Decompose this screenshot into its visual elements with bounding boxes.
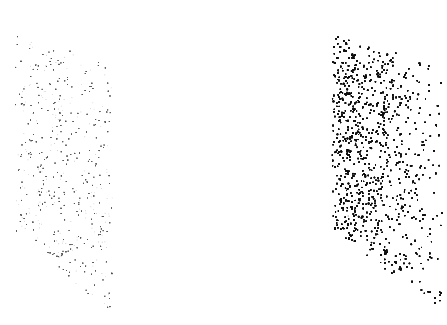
stipple-artwork xyxy=(0,0,447,325)
illustration-canvas: light dark-gradient xyxy=(0,0,447,325)
